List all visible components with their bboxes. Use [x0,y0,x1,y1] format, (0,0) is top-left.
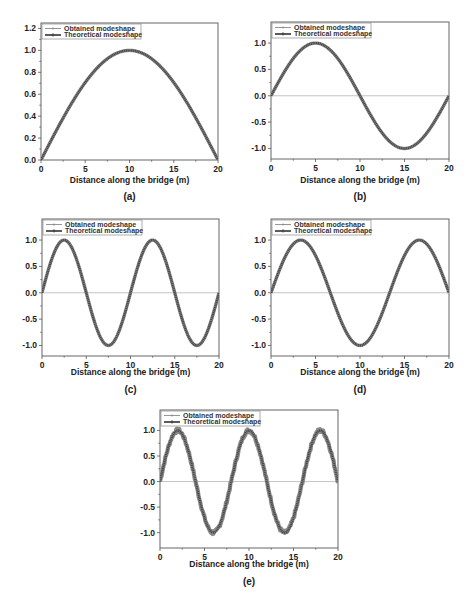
legend-label-theoretical: Theoretical modeshape [64,31,142,39]
x-tick-label: 15 [400,163,410,173]
y-tick-label: 0.0 [24,155,36,165]
x-tick-label: 20 [444,163,454,173]
x-tick-label: 20 [214,360,224,370]
x-tick-label: 0 [269,360,274,370]
y-tick-label: 1.2 [24,23,36,33]
plot-area [41,23,218,160]
y-tick-label: -1.0 [251,340,266,350]
x-tick-label: 15 [169,164,179,174]
x-tick-label: 0 [269,163,274,173]
x-tick-label: 20 [333,552,343,562]
chart-panel-c: 05101520-1.0-0.50.00.51.0Obtained modesh… [22,219,224,395]
y-tick-label: 0.5 [25,261,37,271]
x-tick-label: 10 [355,163,365,173]
legend-label-theoretical: Theoretical modeshape [65,227,143,235]
legend-label-theoretical: Theoretical modeshape [294,30,372,38]
legend-label-theoretical: Theoretical modeshape [294,227,372,235]
y-tick-label: 1.0 [254,235,266,245]
x-tick-label: 5 [83,164,88,174]
y-tick-label: 0.0 [25,288,37,298]
panel-caption: (b) [354,191,367,202]
panel-caption: (a) [123,191,135,202]
legend: Obtained modeshapeTheoretical modeshape [272,23,372,38]
y-tick-label: -1.0 [251,143,266,153]
legend-label-theoretical: Theoretical modeshape [183,418,261,426]
legend: Obtained modeshapeTheoretical modeshape [161,411,261,426]
x-axis-title: Distance along the bridge (m) [300,175,420,185]
x-tick-label: 5 [313,163,318,173]
y-tick-label: 1.0 [25,235,37,245]
x-tick-label: 0 [39,164,44,174]
y-tick-label: -1.0 [22,340,37,350]
chart-panel-d: 05101520-1.0-0.50.00.51.0Obtained modesh… [251,219,454,395]
x-tick-label: 10 [125,164,135,174]
y-tick-label: 1.0 [143,425,155,435]
chart-panel-b: 05101520-1.0-0.50.00.51.0Obtained modesh… [251,22,454,202]
panel-caption: (e) [243,576,255,587]
y-tick-label: -0.5 [251,117,266,127]
x-axis-title: Distance along the bridge (m) [71,367,191,377]
figure-canvas: 051015200.00.20.40.60.81.01.2Obtained mo… [0,0,470,602]
legend: Obtained modeshapeTheoretical modeshape [272,220,372,235]
y-tick-label: 0.5 [254,64,266,74]
x-tick-label: 20 [444,360,454,370]
x-tick-label: 20 [213,164,223,174]
y-tick-label: 0.5 [254,261,266,271]
y-tick-label: 0.6 [24,89,36,99]
legend: Obtained modeshapeTheoretical modeshape [43,220,143,235]
y-tick-label: -1.0 [140,528,155,538]
panel-caption: (d) [354,384,367,395]
y-tick-label: 0.0 [254,91,266,101]
modeshape-figure: 051015200.00.20.40.60.81.01.2Obtained mo… [0,0,470,602]
y-tick-label: 0.0 [254,288,266,298]
y-tick-label: 1.0 [24,45,36,55]
y-tick-label: 0.2 [24,133,36,143]
y-tick-label: -0.5 [22,314,37,324]
y-tick-label: -0.5 [251,314,266,324]
y-tick-label: 0.0 [143,477,155,487]
panel-caption: (c) [124,384,136,395]
chart-panel-a: 051015200.00.20.40.60.81.01.2Obtained mo… [24,23,223,202]
y-tick-label: 0.5 [143,451,155,461]
x-axis-title: Distance along the bridge (m) [70,175,190,185]
y-tick-label: 0.8 [24,67,36,77]
chart-panel-e: 05101520-1.0-0.50.00.51.0Obtained modesh… [140,410,343,587]
y-tick-label: 1.0 [254,38,266,48]
legend: Obtained modeshapeTheoretical modeshape [42,24,142,39]
y-tick-label: -0.5 [140,502,155,512]
x-axis-title: Distance along the bridge (m) [189,559,309,569]
x-tick-label: 0 [158,552,163,562]
x-axis-title: Distance along the bridge (m) [300,367,420,377]
y-tick-label: 0.4 [24,111,36,121]
x-tick-label: 0 [40,360,45,370]
